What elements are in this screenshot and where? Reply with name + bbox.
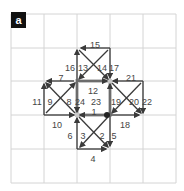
edge-label-19: 19	[111, 97, 121, 107]
edge-label-17: 17	[109, 63, 119, 73]
edge-label-9: 9	[47, 97, 52, 107]
edge-label-3: 3	[80, 131, 85, 141]
edge-label-12: 12	[88, 86, 98, 96]
edge-label-16: 16	[65, 63, 75, 73]
edge-label-21: 21	[126, 73, 136, 83]
edge-label-2: 2	[99, 131, 104, 141]
edge-label-5: 5	[111, 131, 116, 141]
edge-label-6: 6	[67, 131, 72, 141]
edge-label-10: 10	[52, 120, 62, 130]
edge-label-22: 22	[142, 97, 152, 107]
start-node	[104, 112, 110, 118]
edge-label-18: 18	[120, 120, 130, 130]
diagram-stage: 123456789101112131415161718192021222324 …	[0, 0, 184, 191]
edge-label-1: 1	[91, 107, 96, 117]
edge-label-7: 7	[58, 73, 63, 83]
edge-label-24: 24	[75, 97, 85, 107]
node-dot	[104, 112, 110, 118]
panel-label: a	[11, 12, 26, 28]
edge-label-13: 13	[78, 63, 88, 73]
edge-label-11: 11	[32, 97, 41, 107]
edge-label-4: 4	[90, 154, 95, 164]
edge-label-23: 23	[91, 97, 101, 107]
edge-graph-diagram: 123456789101112131415161718192021222324	[0, 0, 184, 191]
edge-label-14: 14	[97, 63, 107, 73]
edge-label-15: 15	[90, 40, 100, 50]
edge-label-20: 20	[129, 97, 139, 107]
edge-labels: 123456789101112131415161718192021222324	[32, 40, 152, 164]
edge-label-8: 8	[66, 97, 71, 107]
